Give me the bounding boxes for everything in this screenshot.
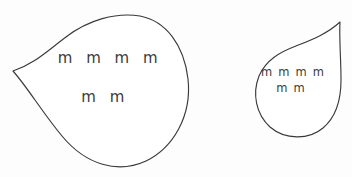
figure-svg: m m m m m m m m m m m m [0, 0, 352, 177]
small-shape-label-line-1: m m m m [261, 65, 325, 79]
figure-canvas: m m m m m m m m m m m m [0, 0, 352, 177]
small-shape-label-line-2: m m [276, 81, 306, 95]
large-shape-label-line-2: m m [81, 88, 129, 106]
large-shape-label-line-1: m m m m [58, 49, 162, 67]
right-teardrop-group: m m m m m m [256, 22, 341, 137]
small-teardrop-shape [256, 22, 341, 137]
left-teardrop-group: m m m m m m [13, 15, 189, 167]
